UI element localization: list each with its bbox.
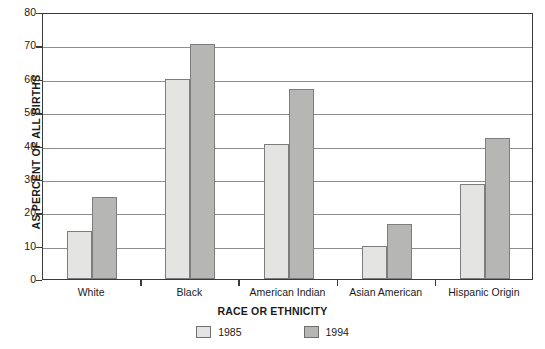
bar-black-1994 [190,44,215,279]
category-label-hispanic-origin: Hispanic Origin [414,286,545,298]
legend-item-1994: 1994 [304,326,349,338]
gridline [43,114,532,115]
legend: 19851994 [0,326,545,338]
bar-white-1994 [92,197,117,279]
legend-swatch-1994 [304,326,319,338]
plot-area [42,13,533,280]
bar-asian-american-1994 [387,224,412,279]
gridline [43,81,532,82]
legend-label-1994: 1994 [326,327,349,338]
bar-american-indian-1985 [264,144,289,279]
y-axis-title: AS PERCENT OF ALL BIRTHS [30,52,42,252]
y-axis-tick-label: 0 [14,274,36,284]
bar-american-indian-1994 [289,89,314,279]
y-axis-tick-label: 80 [14,7,36,17]
bar-asian-american-1985 [362,246,387,279]
x-axis-title: RACE OR ETHNICITY [0,305,545,317]
legend-item-1985: 1985 [196,326,241,338]
bar-chart-figure: AS PERCENT OF ALL BIRTHS 010203040506070… [0,0,545,349]
bar-white-1985 [67,231,92,279]
bar-hispanic-origin-1994 [485,138,510,279]
bar-hispanic-origin-1985 [460,184,485,279]
gridline [43,47,532,48]
legend-swatch-1985 [196,326,211,338]
y-axis-tick-mark [36,280,42,281]
legend-label-1985: 1985 [218,327,241,338]
bar-black-1985 [165,79,190,279]
y-axis-tick-label: 70 [14,40,36,50]
